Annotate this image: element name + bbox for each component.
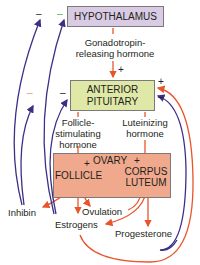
hypothalamus-box: HYPOTHALAMUS (67, 6, 164, 27)
follicle-label: FOLLICLE (55, 170, 102, 181)
fsh-label: Follicle- stimulating hormone (52, 117, 104, 150)
gnrh-label: Gonadotropin- releasing hormone (72, 37, 158, 59)
gnrh-plus-sign: + (118, 65, 124, 75)
corpus-luteum-plus-sign: + (134, 155, 140, 166)
hypothalamus-minus-sign-far: – (36, 9, 42, 19)
pituitary-plus-sign: + (158, 77, 164, 87)
corpus-luteum-label: CORPUS LUTEUM (122, 166, 170, 188)
pituitary-minus-sign-left: – (60, 88, 66, 98)
anterior-pituitary-box: ANTERIOR PITUITARY (70, 80, 155, 111)
hypothalamus-minus-sign: – (57, 9, 63, 19)
inhibin-to-pituitary (21, 106, 33, 205)
inhibin-label: Inhibin (8, 207, 36, 218)
pituitary-minus-sign-far-left: – (27, 88, 33, 98)
inhibin-to-hypothalamus (14, 20, 40, 205)
estrogens-label: Estrogens (55, 219, 98, 230)
follicle-plus-sign: + (84, 158, 90, 169)
lh-label: Luteinizing hormone (117, 117, 173, 139)
ovary-label: OVARY (93, 155, 127, 166)
hypothalamus-label: HYPOTHALAMUS (74, 11, 157, 22)
ovulation-label: Ovulation (82, 206, 122, 217)
progesterone-label: Progesterone (115, 228, 172, 239)
pituitary-minus-sign-right: – (158, 92, 164, 102)
